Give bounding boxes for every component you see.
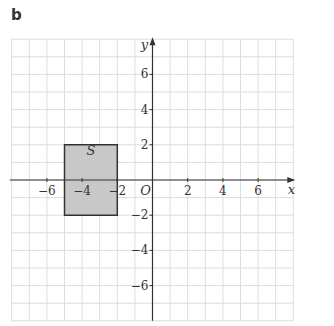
svg-text:x: x (288, 182, 296, 197)
svg-text:2: 2 (184, 184, 192, 198)
svg-text:−2: −2 (108, 184, 126, 198)
axes (10, 37, 296, 321)
svg-text:−6: −6 (38, 184, 56, 198)
svg-text:−4: −4 (73, 184, 91, 198)
svg-text:6: 6 (254, 184, 262, 198)
svg-text:S: S (86, 143, 95, 158)
svg-text:−2: −2 (131, 208, 149, 222)
svg-text:O: O (140, 183, 151, 198)
svg-text:−4: −4 (131, 243, 149, 257)
svg-text:−6: −6 (131, 279, 149, 293)
shape-s: S (65, 143, 118, 215)
svg-text:y: y (140, 37, 149, 52)
svg-text:4: 4 (141, 103, 149, 117)
svg-text:4: 4 (219, 184, 227, 198)
svg-text:6: 6 (141, 67, 149, 81)
coordinate-grid: S −6−4−2246642−2−4−6Oxy (0, 0, 334, 326)
svg-text:2: 2 (141, 138, 149, 152)
